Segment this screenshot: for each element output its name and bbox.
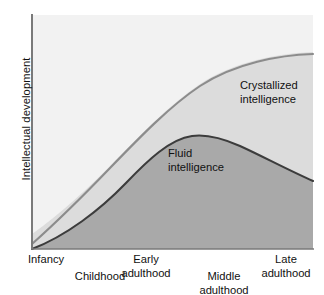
x-tick-label-infancy: Infancy	[28, 253, 88, 267]
y-axis-title: Intellectual development	[20, 9, 32, 229]
x-tick-label-late-adulthood: Late adulthood	[248, 253, 324, 280]
chart-plot-area	[0, 0, 324, 295]
series-annotation-fluid: Fluid intelligence	[168, 147, 224, 174]
series-annotation-crystallized: Crystallized intelligence	[240, 79, 298, 106]
intelligence-development-chart: Intellectual development Crystallized in…	[0, 0, 324, 295]
x-tick-label-early-adulthood: Early adulthood	[106, 253, 186, 280]
